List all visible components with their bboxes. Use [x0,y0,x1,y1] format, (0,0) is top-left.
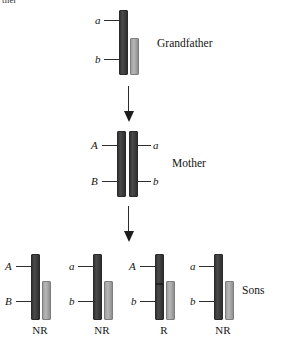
allele-label-son-4-second: b [190,296,196,307]
allele-tick-son-4-second [199,301,214,302]
allele-label-grandfather-a: a [95,15,101,26]
chromosome-son-1-light [42,281,51,320]
allele-tick-son-1-first [16,266,31,267]
generation-label-sons: Sons [242,284,264,296]
allele-label-grandfather-b: b [95,54,101,65]
chromosome-grandfather-dark [119,10,128,75]
arrow-head [124,231,134,242]
chromosome-son-3-dark-recombinant [155,254,164,320]
allele-tick-son-2-second [78,301,93,302]
allele-tick-son-2-first [78,266,93,267]
chromosome-son-4-dark [214,254,223,320]
arrow-head [124,111,134,122]
allele-tick-mother-b [136,181,151,182]
allele-label-son-3-first: A [129,261,136,272]
arrow-shaft [128,86,129,112]
arrow-mother-to-sons [123,206,134,242]
clipped-caption-fragment: ther [2,0,17,5]
allele-tick-mother-B [102,181,117,182]
allele-tick-grandfather-a [104,20,119,21]
chromosome-mother-paternal [129,131,138,197]
allele-label-mother-b: b [153,176,159,187]
status-label-son-3: R [144,324,184,336]
chromosome-son-1-dark [31,254,40,320]
generation-label-mother: Mother [172,157,206,169]
allele-label-son-1-first: A [5,261,12,272]
status-label-son-1: NR [20,324,60,336]
allele-tick-son-3-second [140,301,155,302]
chromosome-mother-maternal [117,131,126,197]
allele-label-son-1-second: B [5,296,12,307]
status-label-son-4: NR [203,324,243,336]
chromosome-son-2-light [104,281,113,320]
allele-label-son-3-second: b [131,296,137,307]
chromosome-son-2-dark [93,254,102,320]
chromosome-son-3-light [166,281,175,320]
arrow-shaft [128,206,129,232]
allele-label-son-2-first: a [69,261,75,272]
chromosome-grandfather-light [130,38,139,75]
allele-tick-son-3-first [140,266,155,267]
allele-label-mother-a: a [153,140,159,151]
allele-tick-mother-A [102,145,117,146]
chromosome-son-4-light [225,281,234,320]
allele-tick-son-1-second [16,301,31,302]
allele-label-son-2-second: b [69,296,75,307]
allele-tick-mother-a [136,145,151,146]
arrow-grandfather-to-mother [123,86,134,122]
allele-label-son-4-first: a [190,261,196,272]
status-label-son-2: NR [82,324,122,336]
generation-label-grandfather: Grandfather [157,37,213,49]
allele-tick-grandfather-b [104,59,119,60]
allele-label-mother-A: A [91,140,98,151]
allele-label-mother-B: B [91,176,98,187]
allele-tick-son-4-first [199,266,214,267]
